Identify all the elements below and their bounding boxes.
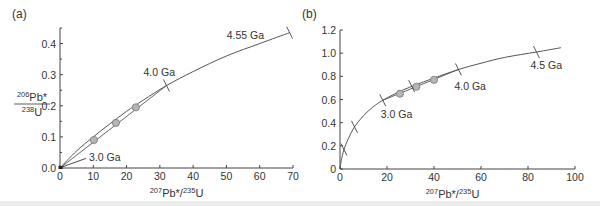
age-tick-mark bbox=[455, 63, 461, 75]
sample-point bbox=[112, 119, 119, 126]
y-axis-label-numerator: 206Pb* bbox=[17, 90, 48, 104]
x-tick-label: 50 bbox=[221, 170, 233, 182]
x-tick-label: 30 bbox=[154, 170, 166, 182]
age-label: 4.0 Ga bbox=[144, 66, 176, 78]
x-tick-label: 80 bbox=[522, 171, 534, 183]
y-tick-label: 0.8 bbox=[321, 70, 336, 82]
x-axis-label: 207Pb*/235U bbox=[150, 186, 204, 200]
x-tick-label: 60 bbox=[254, 170, 266, 182]
age-label: 3.0 Ga bbox=[381, 108, 413, 120]
x-tick-label: 0 bbox=[57, 170, 63, 182]
y-tick-label: 0.2 bbox=[321, 140, 336, 152]
sample-point bbox=[430, 76, 437, 83]
discordia-line bbox=[383, 69, 459, 100]
age-label: 4.0 Ga bbox=[454, 80, 486, 92]
x-tick-label: 0 bbox=[337, 171, 343, 183]
age-tick-mark bbox=[341, 144, 347, 156]
y-tick-label: 1.0 bbox=[321, 47, 336, 59]
y-tick-label: 0.0 bbox=[41, 162, 56, 174]
x-tick-label: 10 bbox=[87, 170, 99, 182]
concordia-line bbox=[60, 33, 290, 168]
concordia-figure: (a)0102030405060700.00.10.20.30.4207Pb*/… bbox=[0, 0, 600, 206]
panel-label: (a) bbox=[12, 7, 27, 21]
sample-point bbox=[396, 90, 403, 97]
y-axis-label-denominator: 238U bbox=[22, 105, 42, 119]
x-tick-label: 40 bbox=[187, 170, 199, 182]
x-axis-label: 207Pb*/235U bbox=[426, 187, 480, 201]
y-tick-label: 0 bbox=[330, 163, 336, 175]
panel-b: (b)02040608010000.20.40.60.81.01.2207Pb*… bbox=[302, 7, 584, 200]
age-tick-mark bbox=[164, 80, 170, 92]
y-tick-label: 0.6 bbox=[321, 94, 336, 106]
age-label: 4.5 Ga bbox=[530, 59, 562, 71]
sample-point bbox=[90, 136, 97, 143]
y-tick-label: 0.4 bbox=[321, 117, 336, 129]
panel-a: (a)0102030405060700.00.10.20.30.4207Pb*/… bbox=[12, 7, 299, 199]
y-tick-label: 1.2 bbox=[321, 24, 336, 36]
age-tick-mark bbox=[380, 94, 386, 106]
concordia-line bbox=[340, 48, 561, 169]
bottom-strip bbox=[0, 201, 600, 206]
age-label: 4.55 Ga bbox=[227, 29, 265, 41]
panel-label: (b) bbox=[302, 7, 317, 21]
y-tick-label: 0.1 bbox=[41, 131, 56, 143]
x-tick-label: 20 bbox=[381, 171, 393, 183]
x-tick-label: 100 bbox=[566, 171, 584, 183]
x-tick-label: 70 bbox=[287, 170, 299, 182]
sample-point bbox=[413, 83, 420, 90]
y-tick-label: 0.3 bbox=[41, 69, 56, 81]
age-tick-mark bbox=[287, 27, 293, 39]
x-tick-label: 20 bbox=[121, 170, 133, 182]
x-tick-label: 40 bbox=[428, 171, 440, 183]
y-tick-label: 0.4 bbox=[41, 38, 56, 50]
sample-point bbox=[132, 104, 139, 111]
origin-marker bbox=[59, 166, 63, 169]
age-label: 3.0 Ga bbox=[89, 151, 121, 163]
x-tick-label: 60 bbox=[475, 171, 487, 183]
